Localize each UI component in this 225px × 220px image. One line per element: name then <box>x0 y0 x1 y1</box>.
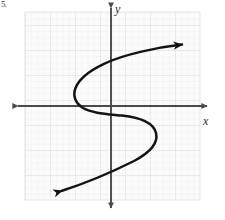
figure-container: 5. <box>0 0 225 220</box>
y-axis-label: y <box>114 2 121 16</box>
graph-canvas: x y <box>0 0 225 220</box>
x-axis-label: x <box>202 114 209 128</box>
